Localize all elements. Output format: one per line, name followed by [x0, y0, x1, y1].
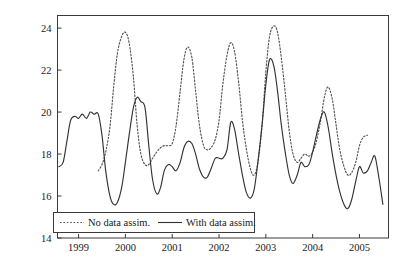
- y-tick-label: 22: [41, 65, 52, 76]
- chart-legend[interactable]: No data assim. With data assim.: [54, 213, 256, 233]
- chart-svg: 141618202224 199920002001200220032004200…: [0, 0, 406, 266]
- x-tick-label: 2004: [302, 242, 324, 253]
- x-tick-label: 2000: [115, 242, 136, 253]
- x-tick-label: 1999: [68, 242, 89, 253]
- x-tick-label: 2002: [209, 242, 230, 253]
- y-tick-label: 14: [41, 233, 52, 244]
- y-tick-label: 16: [41, 191, 52, 202]
- x-tick-label: 2001: [162, 242, 183, 253]
- y-tick-label: 24: [41, 23, 52, 34]
- x-tick-label: 2003: [255, 242, 276, 253]
- plot-area-container: 141618202224 199920002001200220032004200…: [0, 0, 406, 266]
- x-tick-label: 2005: [349, 242, 370, 253]
- legend-label-no-data-assim: No data assim.: [88, 217, 150, 228]
- chart-figure: Scatter index (%) 141618202224 199920002…: [0, 0, 406, 266]
- y-tick-label: 20: [41, 107, 52, 118]
- legend-label-with-data-assim: With data assim.: [186, 217, 256, 228]
- y-tick-label: 18: [41, 149, 52, 160]
